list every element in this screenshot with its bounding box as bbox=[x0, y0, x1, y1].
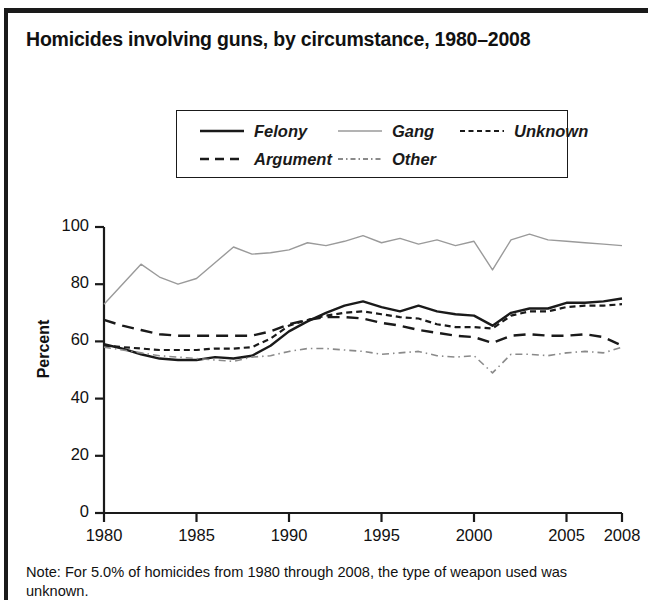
plot-area: Percent 02040608010019801985199019952000… bbox=[0, 0, 650, 600]
x-tick-label: 2000 bbox=[444, 526, 504, 545]
chart-note: Note: For 5.0% of homicides from 1980 th… bbox=[26, 563, 626, 600]
series-line-unknown bbox=[104, 304, 622, 350]
y-tick-label: 80 bbox=[45, 273, 89, 292]
y-tick-label: 60 bbox=[45, 330, 89, 349]
x-tick-label: 1990 bbox=[259, 526, 319, 545]
series-line-argument bbox=[104, 317, 622, 346]
y-tick-label: 40 bbox=[45, 388, 89, 407]
y-tick-label: 0 bbox=[45, 502, 89, 521]
x-tick-label: 1985 bbox=[167, 526, 227, 545]
y-tick-label: 100 bbox=[45, 216, 89, 235]
x-tick-label: 2008 bbox=[592, 526, 650, 545]
x-tick-label: 1980 bbox=[74, 526, 134, 545]
x-tick-label: 1995 bbox=[352, 526, 412, 545]
line-chart-canvas bbox=[0, 0, 650, 600]
series-line-felony bbox=[104, 299, 622, 360]
y-tick-label: 20 bbox=[45, 445, 89, 464]
x-tick-label: 2005 bbox=[537, 526, 597, 545]
series-line-gang bbox=[104, 234, 622, 304]
figure-panel: Homicides involving guns, by circumstanc… bbox=[0, 0, 650, 600]
